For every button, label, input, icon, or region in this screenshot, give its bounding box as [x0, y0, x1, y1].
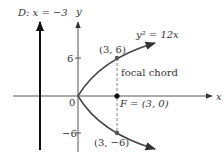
point-upper-label: (3, 6): [99, 44, 126, 55]
point-upper: [115, 56, 119, 60]
tick-pos-label: 6: [67, 53, 73, 64]
point-lower: [115, 131, 119, 135]
focus-point: [114, 93, 119, 98]
y-axis-label: y: [75, 6, 82, 17]
directrix-label: D: x = −3: [17, 7, 68, 18]
tick-neg-label: −6: [62, 128, 77, 139]
x-axis-label: x: [216, 91, 222, 102]
focus-label: F = (3, 0): [119, 98, 169, 109]
equation-label: y² = 12x: [135, 29, 179, 40]
parabola-diagram: D: x = −3 y x y² = 12x 0 6 −6 (3, 6) (3,…: [0, 0, 224, 160]
point-lower-label: (3, −6): [94, 137, 129, 148]
origin-label: 0: [69, 97, 75, 108]
focal-chord-label: focal chord: [121, 67, 179, 78]
